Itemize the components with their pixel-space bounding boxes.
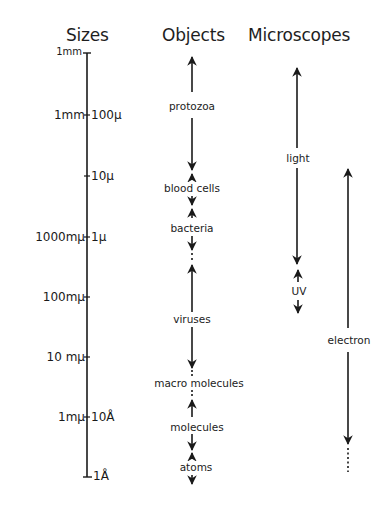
microscopes-arrows <box>297 68 348 472</box>
size-label-right: 1µ <box>91 231 106 243</box>
size-label-right: 10µ <box>91 170 114 182</box>
size-label-left: 100mµ <box>43 291 85 303</box>
size-label-left: 10 mµ <box>47 351 85 363</box>
object-label-bacteria: bacteria <box>169 222 214 234</box>
size-label-left: 1mµ <box>58 411 85 423</box>
diagram-graphics <box>0 0 391 512</box>
size-label-right: 10Å <box>91 411 114 423</box>
object-label-macro-molecules: macro molecules <box>153 377 245 389</box>
object-label-blood-cells: blood cells <box>163 182 221 194</box>
size-label-left: 1mm <box>54 109 85 121</box>
microscope-label-uv: UV <box>291 285 308 297</box>
object-label-protozoa: protozoa <box>168 100 216 112</box>
size-label-right: 1Å <box>93 470 109 482</box>
size-label-left: 1mm <box>56 46 82 58</box>
size-label-left: 1000mµ <box>35 231 85 243</box>
microscope-label-electron: electron <box>327 334 372 346</box>
object-label-molecules: molecules <box>169 421 224 433</box>
microscope-label-light: light <box>285 152 310 164</box>
size-label-right: 100µ <box>91 109 122 121</box>
object-label-viruses: viruses <box>172 313 212 325</box>
object-label-atoms: atoms <box>179 461 214 473</box>
